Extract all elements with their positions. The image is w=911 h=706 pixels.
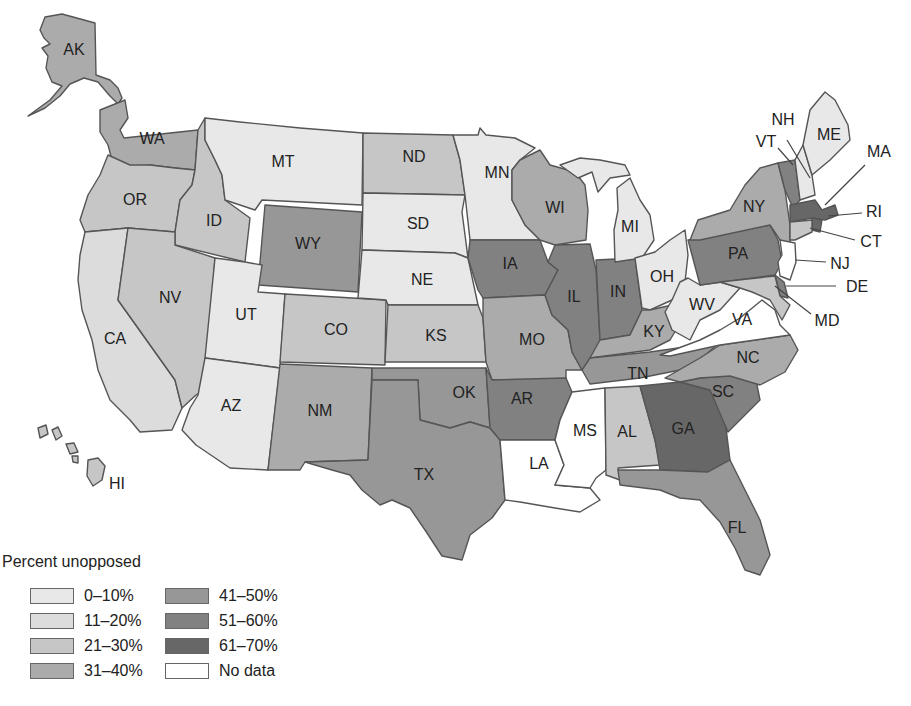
legend-title: Percent unopposed [2, 553, 141, 571]
label-GA: GA [671, 420, 694, 437]
label-HI: HI [109, 475, 125, 492]
label-IA: IA [502, 255, 517, 272]
label-FL: FL [728, 519, 747, 536]
label-NJ: NJ [830, 255, 850, 272]
label-KY: KY [643, 323, 665, 340]
legend-item-11-20: 11–20% [30, 611, 142, 631]
us-choropleth-map: AK HI WA OR CA ID NV MT WY UT AZ CO NM N… [0, 0, 911, 706]
label-AZ: AZ [221, 397, 242, 414]
label-CA: CA [104, 330, 127, 347]
legend-item-0-10: 0–10% [30, 586, 134, 606]
state-HI [38, 425, 105, 486]
label-AR: AR [511, 390, 533, 407]
label-IN: IN [610, 283, 626, 300]
label-OR: OR [123, 191, 147, 208]
label-ID: ID [206, 212, 222, 229]
label-MS: MS [573, 422, 597, 439]
label-TN: TN [627, 365, 648, 382]
label-RI: RI [866, 203, 882, 220]
label-IL: IL [567, 288, 580, 305]
label-MN: MN [485, 164, 510, 181]
label-NC: NC [736, 349, 759, 366]
label-NE: NE [411, 271, 433, 288]
label-AL: AL [617, 423, 637, 440]
label-WV: WV [689, 296, 715, 313]
label-ME: ME [817, 126, 841, 143]
legend-item-no-data: No data [165, 661, 275, 681]
label-TX: TX [414, 466, 435, 483]
label-DE: DE [846, 278, 868, 295]
label-OK: OK [452, 384, 475, 401]
label-MT: MT [271, 153, 294, 170]
label-AK: AK [63, 41, 85, 58]
state-CT [790, 220, 812, 240]
legend: Percent unopposed 0–10% 11–20% 21–30% 31… [2, 553, 141, 571]
legend-item-51-60: 51–60% [165, 611, 278, 631]
label-MA: MA [867, 143, 891, 160]
label-LA: LA [529, 455, 549, 472]
label-OH: OH [650, 268, 674, 285]
legend-item-61-70: 61–70% [165, 636, 278, 656]
state-AK [28, 14, 122, 116]
label-MO: MO [519, 331, 545, 348]
state-FL [618, 460, 770, 575]
label-WI: WI [545, 199, 565, 216]
label-NH: NH [771, 111, 794, 128]
legend-item-41-50: 41–50% [165, 586, 278, 606]
label-CO: CO [324, 321, 348, 338]
label-SC: SC [712, 383, 734, 400]
label-KS: KS [425, 327, 446, 344]
label-PA: PA [728, 245, 748, 262]
label-NM: NM [308, 402, 333, 419]
label-SD: SD [407, 215, 429, 232]
label-UT: UT [235, 306, 257, 323]
label-MI: MI [621, 218, 639, 235]
label-ND: ND [402, 148, 425, 165]
label-MD: MD [815, 312, 840, 329]
label-NY: NY [743, 198, 766, 215]
label-WA: WA [139, 130, 165, 147]
label-WY: WY [295, 235, 321, 252]
label-VA: VA [732, 311, 752, 328]
legend-item-21-30: 21–30% [30, 636, 143, 656]
label-NV: NV [159, 289, 182, 306]
label-CT: CT [860, 233, 882, 250]
state-NJ [778, 240, 796, 280]
legend-item-31-40: 31–40% [30, 661, 143, 681]
label-VT: VT [756, 133, 777, 150]
